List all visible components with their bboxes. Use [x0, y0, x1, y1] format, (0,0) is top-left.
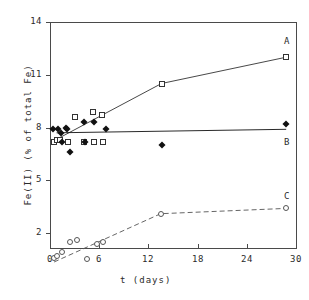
series-lines — [0, 0, 309, 300]
series-line-B — [57, 129, 287, 133]
series-line-A — [56, 57, 287, 140]
series-line-C — [54, 208, 286, 262]
chart-figure: 25811140612182430 Fe(II) (% of total Fe)… — [0, 0, 309, 300]
